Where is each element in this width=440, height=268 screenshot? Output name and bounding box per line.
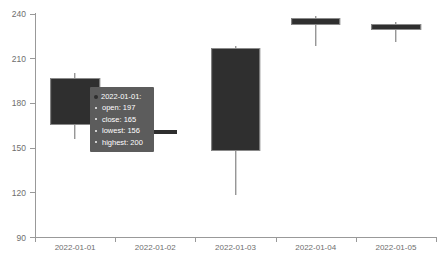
y-axis-tick-label: 120 (12, 189, 26, 198)
candle-body (211, 48, 261, 151)
y-axis-tick-label: 240 (12, 10, 26, 19)
bullet-square-icon (95, 141, 97, 143)
y-axis-tick: 150 (30, 148, 35, 149)
x-axis-tick (356, 237, 357, 242)
tooltip-row: open: 197 (94, 102, 150, 113)
x-axis-tick (115, 237, 116, 242)
x-axis-line (35, 237, 436, 238)
y-axis-tick-label: 180 (12, 99, 26, 108)
y-axis-tick: 210 (30, 58, 35, 59)
y-axis-tick-label: 150 (12, 144, 26, 153)
tooltip-row-label: highest: 200 (102, 137, 143, 148)
x-axis-tick (276, 237, 277, 242)
x-axis-tick-label: 2022-01-04 (295, 244, 336, 252)
tooltip-row-label: lowest: 156 (102, 125, 140, 136)
tooltip-row-label: close: 165 (102, 114, 136, 125)
x-axis-tick-label: 2022-01-03 (215, 244, 256, 252)
tooltip-title: 2022-01-01: (101, 91, 141, 102)
tooltip-row: close: 165 (94, 114, 150, 125)
candle-body (371, 24, 421, 30)
x-axis-tick (195, 237, 196, 242)
candlestick-chart: 24021018015012090 2022-01-012022-01-0220… (0, 0, 440, 268)
tooltip-title-row: 2022-01-01: (94, 91, 150, 102)
bullet-dot-icon (94, 95, 98, 99)
x-axis-tick-label: 2022-01-01 (55, 244, 96, 252)
bullet-square-icon (95, 130, 97, 132)
chart-tooltip: 2022-01-01: open: 197close: 165lowest: 1… (90, 87, 154, 152)
candle-body (291, 18, 341, 25)
bullet-square-icon (95, 107, 97, 109)
x-axis-tick-label: 2022-01-05 (375, 244, 416, 252)
y-axis-tick-label: 210 (12, 54, 26, 63)
y-axis-tick: 240 (30, 14, 35, 15)
x-axis-tick (436, 237, 437, 242)
x-axis-tick-label: 2022-01-02 (135, 244, 176, 252)
tooltip-row-label: open: 197 (102, 102, 135, 113)
bullet-square-icon (95, 118, 97, 120)
tooltip-leader-line (153, 130, 177, 134)
y-axis-line (35, 13, 36, 238)
y-axis-tick-label: 90 (17, 233, 26, 242)
tooltip-row: lowest: 156 (94, 125, 150, 136)
x-axis-tick (35, 237, 36, 242)
y-axis-tick: 120 (30, 192, 35, 193)
tooltip-rows: open: 197close: 165lowest: 156highest: 2… (94, 102, 150, 148)
tooltip-row: highest: 200 (94, 137, 150, 148)
y-axis-tick: 180 (30, 103, 35, 104)
